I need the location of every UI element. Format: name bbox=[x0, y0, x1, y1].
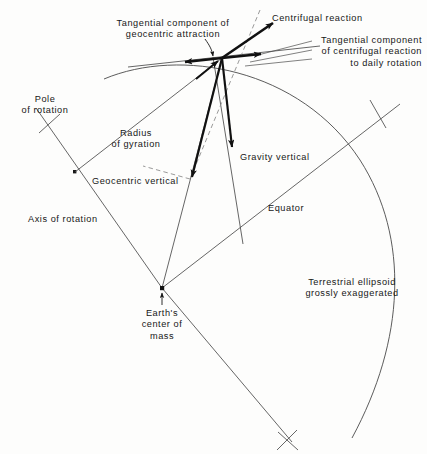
label-gravity-vertical: Gravity vertical bbox=[240, 152, 340, 163]
label-equator: Equator bbox=[268, 203, 338, 214]
label-earths-center-of-mass: Earth's center of mass bbox=[120, 308, 204, 342]
equator-lower-tick-a bbox=[278, 432, 298, 450]
label-tangential-centrifugal-reaction: Tangential component of centrifugal reac… bbox=[255, 35, 422, 69]
geodesy-diagram: Tangential component of geocentric attra… bbox=[0, 0, 427, 454]
label-pole-of-rotation: Pole of rotation bbox=[4, 94, 86, 117]
geocentric-attraction-vector bbox=[192, 58, 222, 177]
label-terrestrial-ellipsoid: Terrestrial ellipsoid grossly exaggerate… bbox=[294, 277, 410, 300]
gravity-vertical-line bbox=[213, 57, 243, 244]
terrestrial-ellipsoid-surface bbox=[104, 65, 395, 438]
label-centrifugal-reaction: Centrifugal reaction bbox=[272, 13, 422, 24]
label-tangential-geocentric-attraction: Tangential component of geocentric attra… bbox=[94, 18, 252, 41]
earths-center-of-mass-point bbox=[160, 286, 164, 290]
equator-line-upper bbox=[162, 104, 400, 288]
leader-tangential-geocentric bbox=[205, 39, 213, 56]
label-axis-of-rotation: Axis of rotation bbox=[28, 214, 138, 225]
equator-lower-tick-b bbox=[277, 430, 297, 450]
equator-upper-tick bbox=[370, 100, 386, 128]
label-geocentric-vertical: Geocentric vertical bbox=[92, 176, 212, 187]
label-radius-of-gyration: Radius of gyration bbox=[98, 128, 174, 151]
